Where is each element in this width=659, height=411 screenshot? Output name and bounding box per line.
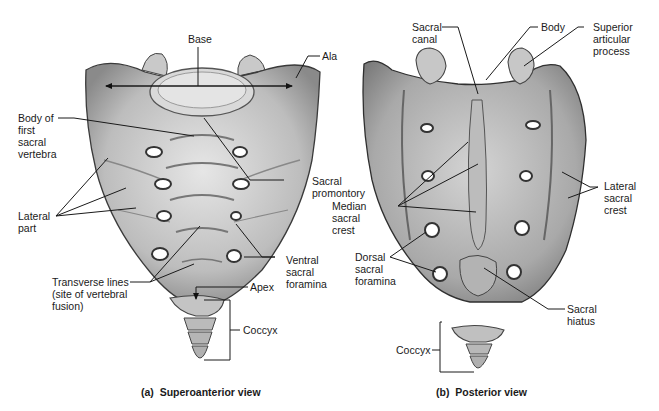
label-sacral-promontory: Sacral promontory bbox=[312, 175, 365, 199]
label-body: Body bbox=[541, 21, 565, 33]
label-dorsal-sacral-foramina: Dorsal sacral foramina bbox=[355, 251, 396, 287]
label-coccyx-a: Coccyx bbox=[243, 324, 277, 336]
label-transverse-lines: Transverse lines (site of vertebral fusi… bbox=[52, 276, 129, 312]
label-lateral-sacral-crest: Lateral sacral crest bbox=[604, 180, 636, 216]
caption-posterior-view: (b) Posterior view bbox=[436, 386, 527, 398]
label-sacral-hiatus: Sacral hiatus bbox=[567, 303, 597, 327]
label-base: Base bbox=[188, 33, 212, 45]
label-body-first-sacral-vertebra: Body of first sacral vertebra bbox=[18, 112, 57, 160]
caption-superoanterior-view: (a) Superoanterior view bbox=[141, 386, 261, 398]
panel-b-bone bbox=[363, 48, 586, 368]
label-median-sacral-crest: Median sacral crest bbox=[332, 200, 366, 236]
label-superior-articular-process: Superior articular process bbox=[593, 21, 633, 57]
label-lateral-part: Lateral part bbox=[18, 210, 50, 234]
panel-a-bone bbox=[86, 53, 320, 358]
label-sacral-canal: Sacral canal bbox=[412, 21, 442, 45]
label-apex: Apex bbox=[250, 281, 274, 293]
label-coccyx-b: Coccyx bbox=[396, 344, 430, 356]
label-ventral-sacral-foramina: Ventral sacral foramina bbox=[286, 254, 327, 290]
label-ala: Ala bbox=[322, 50, 337, 62]
